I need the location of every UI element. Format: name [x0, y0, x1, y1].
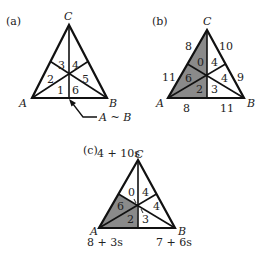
vertex-a: A [155, 97, 164, 110]
vertex-b: B [246, 97, 255, 110]
edge-label-ca-upper: 8 [185, 40, 192, 53]
region-left: 6 [117, 200, 124, 213]
region-5: 5 [82, 73, 89, 86]
panel-c: (c) C A B 4 + 10s 8 + 3s 7 + 6s 2 6 0 4 … [83, 144, 192, 249]
tick-mark [134, 199, 136, 203]
region-bottom-left: 2 [127, 213, 134, 226]
region-top-left: 0 [128, 186, 135, 199]
edge-label-ab-right: 11 [220, 102, 234, 115]
region-top-left: 0 [197, 56, 204, 69]
panel-label: (b) [152, 15, 168, 28]
arrow-line [73, 104, 97, 117]
edge-label-cb-upper: 10 [219, 40, 233, 53]
region-left: 6 [185, 72, 192, 85]
panel-a: (a) C A B 1 2 3 4 5 6 A ~ B [6, 10, 131, 124]
vertex-a-value: 8 + 3s [87, 236, 123, 249]
triangle-diagrams: (a) C A B 1 2 3 4 5 6 A ~ B (b) C A B 8 … [0, 0, 271, 253]
region-top-right: 4 [142, 186, 149, 199]
vertex-a: A [18, 97, 27, 110]
arrow-head-icon [69, 99, 76, 107]
vertex-b-value: 7 + 6s [156, 236, 192, 249]
region-bottom-right: 3 [142, 213, 149, 226]
vertex-b: B [108, 97, 117, 110]
panel-label: (a) [6, 15, 21, 28]
figure: (a) C A B 1 2 3 4 5 6 A ~ B (b) C A B 8 … [0, 0, 271, 253]
vertex-c: C [203, 15, 212, 28]
panel-label: (c) [83, 144, 98, 157]
edge-label-ca-lower: 11 [162, 71, 176, 84]
region-bottom-right: 3 [211, 83, 218, 96]
vertex-c: C [64, 10, 73, 23]
edge-label-cb-lower: 9 [237, 71, 244, 84]
vertex-c-value: 4 + 10s [97, 147, 140, 160]
region-2: 2 [47, 73, 54, 86]
region-4: 4 [72, 59, 79, 72]
edge-label-ab-left: 8 [183, 102, 190, 115]
region-bottom-left: 2 [196, 83, 203, 96]
region-1: 1 [57, 84, 64, 97]
region-right: 4 [153, 200, 160, 213]
panel-b: (b) C A B 8 11 10 9 8 11 2 6 0 4 4 3 [152, 15, 255, 115]
annotation-a-b: A ~ B [98, 111, 131, 124]
region-top-right: 4 [211, 56, 218, 69]
region-6: 6 [72, 84, 79, 97]
region-3: 3 [58, 59, 65, 72]
region-right: 4 [221, 72, 228, 85]
